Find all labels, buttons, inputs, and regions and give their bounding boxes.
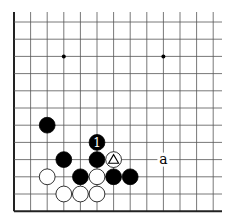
- white-stone[interactable]: [73, 186, 89, 202]
- white-stone[interactable]: [89, 186, 105, 202]
- move-number-label: 1: [93, 136, 101, 150]
- star-point-icon: [62, 54, 66, 58]
- white-stone[interactable]: [89, 169, 105, 185]
- black-stone[interactable]: [89, 152, 105, 168]
- black-stone[interactable]: [73, 169, 89, 185]
- white-stone[interactable]: [106, 152, 122, 168]
- black-stone[interactable]: 1: [89, 135, 105, 151]
- point-labels: a: [157, 151, 169, 167]
- star-point-icon: [161, 54, 165, 58]
- black-stone[interactable]: [106, 169, 122, 185]
- go-board[interactable]: 1 a: [0, 0, 235, 224]
- white-stone[interactable]: [56, 186, 72, 202]
- black-stone[interactable]: [56, 152, 72, 168]
- white-stone[interactable]: [39, 169, 55, 185]
- point-label-a[interactable]: a: [159, 151, 167, 167]
- black-stone[interactable]: [122, 169, 138, 185]
- black-stone[interactable]: [39, 117, 55, 133]
